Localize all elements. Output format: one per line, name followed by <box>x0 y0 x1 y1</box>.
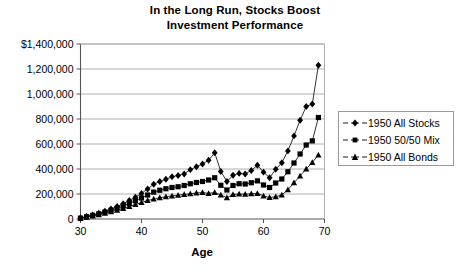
data-point <box>188 181 193 186</box>
x-tick-label: 30 <box>75 225 87 237</box>
diamond-marker-icon <box>342 116 368 130</box>
data-point <box>163 186 168 191</box>
data-point <box>181 171 187 178</box>
data-point <box>224 187 229 192</box>
data-point <box>157 178 163 185</box>
y-tick-label: 400,000 <box>36 163 74 175</box>
data-point <box>316 115 321 120</box>
data-point <box>157 188 162 193</box>
legend-item[interactable]: 1950 50/50 Mix <box>339 131 453 148</box>
data-point <box>285 169 290 174</box>
y-tick-label: 800,000 <box>36 113 74 125</box>
y-tick-label: 1,000,000 <box>27 88 74 100</box>
legend-item-label: 1950 All Bonds <box>368 150 438 164</box>
data-point <box>304 142 309 147</box>
y-tick-label: 200,000 <box>36 188 74 200</box>
x-axis-ticks-group: 3040506070 <box>75 219 331 237</box>
data-point <box>218 183 223 188</box>
data-point <box>218 192 224 198</box>
data-point <box>261 182 266 187</box>
x-tick-label: 60 <box>258 225 270 237</box>
series-square <box>78 115 321 221</box>
data-point <box>200 179 205 184</box>
y-tick-label: 1,200,000 <box>27 63 74 75</box>
data-point <box>182 183 187 188</box>
x-tick-label: 50 <box>197 225 209 237</box>
data-point <box>285 147 291 154</box>
legend-item-label: 1950 All Stocks <box>368 116 440 130</box>
data-point <box>199 189 205 195</box>
data-point <box>151 190 156 195</box>
x-tick-label: 70 <box>319 225 331 237</box>
data-point <box>237 181 242 186</box>
data-point <box>309 101 315 108</box>
data-point <box>236 170 242 177</box>
data-point <box>297 117 303 124</box>
data-point <box>176 184 181 189</box>
data-point <box>163 176 169 183</box>
data-point <box>248 167 254 174</box>
y-tick-label: 600,000 <box>36 138 74 150</box>
data-point <box>310 138 315 143</box>
data-series-group <box>77 62 321 222</box>
y-tick-label: $1,400,000 <box>21 38 74 50</box>
data-point <box>316 62 322 69</box>
x-axis-title: Age <box>152 246 252 258</box>
data-point <box>249 180 254 185</box>
x-tick-label: 40 <box>136 225 148 237</box>
data-point <box>298 151 303 156</box>
data-point <box>212 189 218 195</box>
data-point <box>255 178 260 183</box>
y-tick-label: 0 <box>68 213 74 225</box>
legend-item[interactable]: 1950 All Stocks <box>339 114 453 131</box>
data-point <box>151 181 157 188</box>
data-point <box>194 180 199 185</box>
data-point <box>169 185 174 190</box>
chart-legend: 1950 All Stocks 1950 50/50 Mix 1950 All … <box>338 111 454 166</box>
legend-item-label: 1950 50/50 Mix <box>368 133 440 147</box>
data-point <box>145 192 150 197</box>
chart-container: In the Long Run, Stocks Boost Investment… <box>0 0 462 272</box>
data-point <box>230 183 235 188</box>
data-point <box>212 175 217 180</box>
data-point <box>169 173 175 180</box>
series-line <box>81 118 319 219</box>
data-point <box>224 195 230 201</box>
data-point <box>187 166 193 173</box>
y-axis-ticks-group: 0200,000400,000600,000800,0001,000,0001,… <box>21 38 81 225</box>
legend-item[interactable]: 1950 All Bonds <box>339 148 453 165</box>
series-triangle <box>77 152 321 221</box>
data-point <box>200 161 206 168</box>
data-point <box>242 171 248 178</box>
data-point <box>273 180 278 185</box>
data-point <box>243 181 248 186</box>
square-marker-icon <box>342 133 368 147</box>
data-point <box>145 186 151 193</box>
data-point <box>291 132 297 139</box>
data-point <box>303 103 309 110</box>
data-point <box>206 177 211 182</box>
triangle-marker-icon <box>342 150 368 164</box>
data-point <box>315 152 321 158</box>
data-point <box>254 190 260 196</box>
data-point <box>267 185 272 190</box>
data-point <box>175 172 181 179</box>
data-point <box>291 160 296 165</box>
data-point <box>279 176 284 181</box>
